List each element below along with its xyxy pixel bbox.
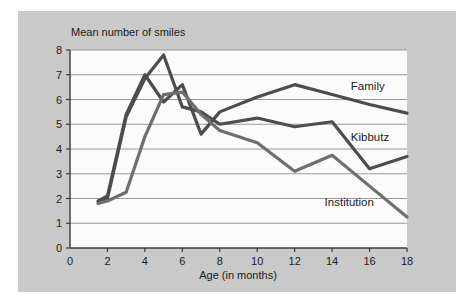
x-tick-label-12: 12 <box>289 255 301 267</box>
x-tick-label-8: 8 <box>217 255 223 267</box>
y-tick-label-5: 5 <box>56 118 62 130</box>
y-tick-label-3: 3 <box>56 168 62 180</box>
y-tick-label-6: 6 <box>56 94 62 106</box>
x-tick-label-0: 0 <box>67 255 73 267</box>
x-tick-label-6: 6 <box>179 255 185 267</box>
x-tick-label-14: 14 <box>326 255 338 267</box>
y-tick-label-0: 0 <box>56 242 62 254</box>
series-label-institution: Institution <box>325 196 374 208</box>
x-tick-label-10: 10 <box>251 255 263 267</box>
y-tick-label-1: 1 <box>56 217 62 229</box>
y-tick-label-4: 4 <box>56 143 62 155</box>
x-tick-label-16: 16 <box>363 255 375 267</box>
y-tick-label-2: 2 <box>56 193 62 205</box>
series-label-kibbutz: Kibbutz <box>351 131 390 143</box>
x-axis-tick-labels: 024681012141618 <box>67 255 413 267</box>
x-tick-label-4: 4 <box>142 255 148 267</box>
y-tick-label-8: 8 <box>56 44 62 56</box>
line-chart: 012345678 024681012141618 FamilyKibbutzI… <box>0 0 473 302</box>
y-axis-tick-labels: 012345678 <box>56 44 62 254</box>
chart-figure: 012345678 024681012141618 FamilyKibbutzI… <box>0 0 473 302</box>
y-axis-title: Mean number of smiles <box>71 26 186 38</box>
x-axis-title: Age (in months) <box>199 269 277 281</box>
x-tick-label-18: 18 <box>401 255 413 267</box>
x-tick-label-2: 2 <box>104 255 110 267</box>
y-tick-label-7: 7 <box>56 69 62 81</box>
series-label-family: Family <box>351 80 385 92</box>
